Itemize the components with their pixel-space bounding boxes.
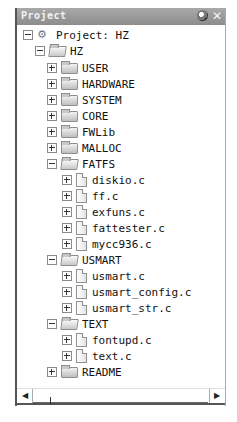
- tree-group-fwlib[interactable]: FWLib: [47, 124, 115, 140]
- expand-toggle[interactable]: [47, 367, 57, 377]
- tree-group-fatfs[interactable]: FATFS: [47, 156, 115, 172]
- tree-file[interactable]: fontupd.c: [62, 332, 152, 348]
- tree-label: CORE: [82, 110, 109, 123]
- tree-label: MALLOC: [82, 142, 122, 155]
- file-icon: [76, 189, 87, 203]
- open-folder-icon: [60, 319, 79, 330]
- project-gears-icon: ⚙: [37, 28, 53, 42]
- tree-file[interactable]: diskio.c: [62, 172, 145, 188]
- folder-icon: [61, 79, 78, 90]
- expand-toggle[interactable]: [62, 335, 72, 345]
- tree-label: SYSTEM: [82, 94, 122, 107]
- tree-group-readme[interactable]: README: [47, 364, 122, 380]
- tree-label: HARDWARE: [82, 78, 135, 91]
- tree-label: usmart_str.c: [92, 302, 171, 315]
- pin-icon[interactable]: [197, 10, 208, 21]
- tree-group-core[interactable]: CORE: [47, 108, 109, 124]
- tree-group-system[interactable]: SYSTEM: [47, 92, 122, 108]
- tree-label: ff.c: [92, 190, 119, 203]
- collapse-toggle[interactable]: [35, 46, 45, 56]
- tree-label: Project: HZ: [56, 29, 129, 42]
- expand-toggle[interactable]: [47, 127, 57, 137]
- open-folder-icon: [60, 255, 79, 266]
- expand-toggle[interactable]: [62, 191, 72, 201]
- file-icon: [76, 221, 87, 235]
- open-folder-icon: [60, 159, 79, 170]
- project-tree: ⚙ Project: HZ HZ USER HARDWARE SYSTEM CO…: [17, 27, 225, 387]
- collapse-toggle[interactable]: [47, 319, 57, 329]
- tree-file[interactable]: fattester.c: [62, 220, 165, 236]
- tree-label: fattester.c: [92, 222, 165, 235]
- file-icon: [76, 205, 87, 219]
- tree-file[interactable]: usmart_config.c: [62, 284, 191, 300]
- tree-root-project[interactable]: ⚙ Project: HZ: [23, 27, 129, 43]
- expand-toggle[interactable]: [47, 63, 57, 73]
- tree-label: diskio.c: [92, 174, 145, 187]
- expand-toggle[interactable]: [62, 303, 72, 313]
- tree-group-usmart[interactable]: USMART: [47, 252, 122, 268]
- tree-file[interactable]: usmart_str.c: [62, 300, 171, 316]
- tree-group-hardware[interactable]: HARDWARE: [47, 76, 135, 92]
- collapse-toggle[interactable]: [47, 255, 57, 265]
- tree-label: FATFS: [82, 158, 115, 171]
- file-icon: [76, 285, 87, 299]
- target-folder-icon: [48, 46, 67, 57]
- horizontal-scrollbar[interactable]: ◀ ▶: [17, 388, 225, 404]
- file-icon: [76, 237, 87, 251]
- file-icon: [76, 301, 87, 315]
- panel-bottom-border: [17, 403, 225, 405]
- panel-title: Project: [21, 10, 67, 21]
- collapse-toggle[interactable]: [47, 159, 57, 169]
- expand-toggle[interactable]: [47, 111, 57, 121]
- tree-label: usmart_config.c: [92, 286, 191, 299]
- tree-label: TEXT: [82, 318, 109, 331]
- tree-label: USMART: [82, 254, 122, 267]
- tree-label: HZ: [70, 45, 83, 58]
- tree-label: USER: [82, 62, 109, 75]
- folder-icon: [61, 143, 78, 154]
- tree-label: usmart.c: [92, 270, 145, 283]
- tree-file[interactable]: text.c: [62, 348, 132, 364]
- tree-file[interactable]: mycc936.c: [62, 236, 152, 252]
- close-icon[interactable]: ✕: [212, 9, 222, 23]
- tree-label: exfuns.c: [92, 206, 145, 219]
- file-icon: [76, 333, 87, 347]
- tree-group-text[interactable]: TEXT: [47, 316, 109, 332]
- scroll-left-arrow-icon[interactable]: ◀: [18, 389, 33, 403]
- panel-divider-tick: [50, 397, 51, 405]
- expand-toggle[interactable]: [62, 239, 72, 249]
- file-icon: [76, 269, 87, 283]
- expand-toggle[interactable]: [47, 95, 57, 105]
- tree-group-user[interactable]: USER: [47, 60, 109, 76]
- tree-group-malloc[interactable]: MALLOC: [47, 140, 122, 156]
- collapse-toggle[interactable]: [23, 30, 33, 40]
- expand-toggle[interactable]: [62, 351, 72, 361]
- folder-icon: [61, 111, 78, 122]
- expand-toggle[interactable]: [62, 207, 72, 217]
- file-icon: [76, 349, 87, 363]
- file-icon: [76, 173, 87, 187]
- folder-icon: [61, 63, 78, 74]
- tree-file[interactable]: usmart.c: [62, 268, 145, 284]
- project-panel: Project ✕ ⚙ Project: HZ HZ USER HARDWARE: [15, 8, 226, 406]
- folder-icon: [61, 127, 78, 138]
- expand-toggle[interactable]: [62, 271, 72, 281]
- tree-label: FWLib: [82, 126, 115, 139]
- tree-label: mycc936.c: [92, 238, 152, 251]
- expand-toggle[interactable]: [47, 143, 57, 153]
- expand-toggle[interactable]: [62, 223, 72, 233]
- folder-icon: [61, 367, 78, 378]
- expand-toggle[interactable]: [62, 175, 72, 185]
- expand-toggle[interactable]: [62, 287, 72, 297]
- tree-label: text.c: [92, 350, 132, 363]
- tree-file[interactable]: exfuns.c: [62, 204, 145, 220]
- tree-target-hz[interactable]: HZ: [35, 43, 83, 59]
- tree-label: README: [82, 366, 122, 379]
- expand-toggle[interactable]: [47, 79, 57, 89]
- folder-icon: [61, 95, 78, 106]
- scroll-right-arrow-icon[interactable]: ▶: [209, 389, 224, 403]
- tree-file[interactable]: ff.c: [62, 188, 119, 204]
- tree-label: fontupd.c: [92, 334, 152, 347]
- panel-titlebar: Project ✕: [17, 8, 225, 25]
